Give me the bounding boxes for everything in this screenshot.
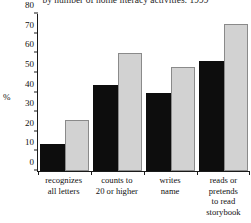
x-axis-label-line: to read bbox=[198, 196, 249, 207]
y-axis-tick-label: 80 bbox=[25, 1, 34, 10]
x-axis-label-line: name bbox=[145, 186, 196, 197]
x-axis-label: counts to20 or higher bbox=[90, 175, 143, 217]
x-axis-label-line: 20 or higher bbox=[91, 186, 142, 197]
y-axis-unit-label: % bbox=[3, 93, 11, 102]
y-axis-tick-label: 10 bbox=[25, 138, 34, 147]
bar-group bbox=[38, 14, 91, 171]
y-axis-tick-label: 30 bbox=[25, 99, 34, 108]
y-axis-tick-label: 60 bbox=[25, 40, 34, 49]
x-axis-label: reads orpretendsto readstorybook bbox=[197, 175, 250, 217]
x-axis-labels: recognizesall letterscounts to20 or high… bbox=[37, 175, 250, 217]
x-axis-label: recognizesall letters bbox=[37, 175, 90, 217]
bar-light[interactable] bbox=[118, 53, 142, 171]
plot-area: 01020304050607080 bbox=[37, 14, 250, 172]
bar-group bbox=[144, 14, 197, 171]
y-axis-tick-label: 40 bbox=[25, 79, 34, 88]
bar-group bbox=[91, 14, 144, 171]
y-axis-tick-label: 50 bbox=[25, 59, 34, 68]
bar-dark[interactable] bbox=[93, 85, 117, 171]
chart-title: by number of home literacy activities: 1… bbox=[0, 0, 251, 6]
bar-group bbox=[197, 14, 250, 171]
x-axis-label-line: recognizes bbox=[38, 175, 89, 186]
bar-light[interactable] bbox=[171, 67, 195, 171]
x-axis-label: writesname bbox=[144, 175, 197, 217]
y-axis-tick-label: 70 bbox=[25, 20, 34, 29]
bar-groups bbox=[38, 14, 250, 171]
bar-dark[interactable] bbox=[146, 93, 170, 172]
x-axis-label-line: writes bbox=[145, 175, 196, 186]
x-axis-label-line: counts to bbox=[91, 175, 142, 186]
x-axis-label-line: all letters bbox=[38, 186, 89, 197]
bar-light[interactable] bbox=[65, 120, 89, 171]
y-axis-tick-label: 0 bbox=[30, 158, 35, 167]
bar-dark[interactable] bbox=[40, 144, 64, 171]
bar-light[interactable] bbox=[224, 24, 248, 171]
x-axis-label-line: reads or bbox=[198, 175, 249, 186]
chart-root: by number of home literacy activities: 1… bbox=[0, 0, 251, 223]
bar-dark[interactable] bbox=[199, 61, 223, 171]
y-axis-tick-label: 20 bbox=[25, 118, 34, 127]
x-axis-label-line: storybook bbox=[198, 207, 249, 218]
x-axis-label-line: pretends bbox=[198, 186, 249, 197]
